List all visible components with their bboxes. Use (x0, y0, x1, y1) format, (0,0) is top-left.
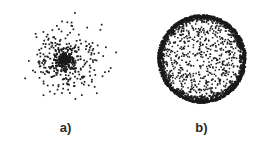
scatter-svg-b (134, 0, 267, 118)
figure-container: a) b) (0, 0, 267, 151)
scatter-plot-a (0, 0, 133, 118)
panel-a: a) (0, 0, 133, 151)
scatter-plot-b (134, 0, 267, 118)
panel-b-label: b) (134, 119, 267, 137)
panel-a-label: a) (0, 119, 133, 137)
scatter-svg-a (0, 0, 133, 118)
panel-b: b) (134, 0, 267, 151)
